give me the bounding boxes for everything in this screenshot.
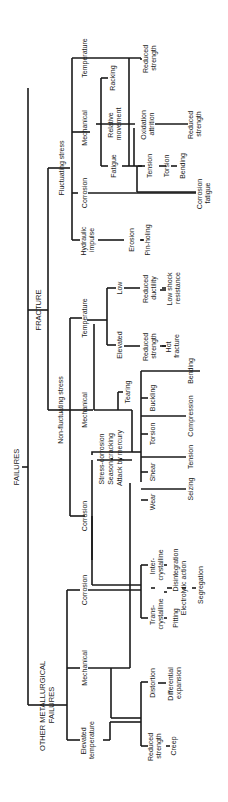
label-torsion-nf: Torsion [149, 423, 156, 446]
label-corrosion-fatigue: Corrosion fatigue [196, 177, 212, 209]
label-disintegration: Disintegration [172, 548, 180, 591]
label-nf-corrosion: Corrosion [81, 501, 88, 531]
label-hot-fracture: Hot fracture [165, 334, 180, 358]
label-other-metallurgical: OTHER METALLURGICAL FAILURES [38, 659, 56, 751]
label-tearing: Tearing [124, 380, 132, 403]
label-fracture: FRACTURE [34, 290, 43, 331]
label-om-elevated-temperature: Elevated temperature [80, 721, 96, 759]
label-nf-reduced-strength: Reduced strength [142, 331, 158, 361]
label-pin-holing: Pin-holing [144, 224, 152, 255]
label-buckling: Buckling [149, 385, 157, 412]
label-trans-crystalline: Trans- crystalline [149, 598, 165, 629]
label-nf-mechanical: Mechanical [81, 392, 88, 428]
label-seizing: Seizing [187, 477, 195, 500]
label-failures: FAILURES [12, 449, 21, 485]
label-racking: Racking [109, 65, 117, 90]
label-creep: Creep [170, 736, 178, 755]
label-non-fluctuating-stress: Non-fluctuating stress [57, 376, 65, 444]
label-distortion: Distortion [149, 668, 156, 698]
label-fl-corrosion: Corrosion [81, 178, 88, 208]
label-fl-reduced-strength-2: Reduced strength [187, 109, 203, 139]
label-low: Low [116, 281, 123, 295]
failures-tree-diagram: FAILURES FRACTURE OTHER METALLURGICAL FA… [0, 0, 228, 802]
label-om-corrosion: Corrosion [81, 575, 88, 605]
label-differential-expansion: Differential expansion [167, 665, 183, 700]
label-fluctuating-stress: Fluctuating stress [58, 140, 66, 195]
node-labels: FAILURES FRACTURE OTHER METALLURGICAL FA… [12, 38, 212, 761]
label-relative-movement: Relative movement [107, 108, 122, 141]
label-torsion-f: Torsion [163, 155, 170, 178]
label-wear: Wear [149, 493, 156, 510]
label-fl-mechanical: Mechanical [81, 110, 88, 146]
label-elevated: Elevated [116, 331, 123, 358]
label-electrolytic-action: Electrolytic action [180, 561, 188, 616]
label-reduced-ductility: Reduced ductility [142, 273, 158, 303]
label-inter-crystalline: Inter- crystalline [149, 549, 165, 580]
label-hydraulic-impulse: Hydraulic impulse [80, 224, 96, 255]
label-fatigue: Fatigue [110, 154, 118, 177]
label-tension-nf: Tension [187, 445, 194, 469]
label-tension-f: Tension [146, 154, 153, 178]
label-fl-temperature: Temperature [81, 38, 89, 77]
label-stress-corrosion: Stress-corrosion Season cracking Attack … [98, 429, 124, 486]
label-shear: Shear [149, 462, 156, 481]
label-pitting: Pitting [172, 608, 180, 628]
label-fl-reduced-strength-1: Reduced strength [142, 43, 158, 73]
label-bending-f: Bending [179, 153, 187, 179]
label-compression: Compression [187, 395, 195, 436]
label-nf-temperature: Temperature [81, 298, 89, 337]
label-segregation: Segregation [197, 566, 205, 604]
label-bending-nf: Bending [187, 358, 195, 384]
label-om-mechanical: Mechanical [81, 650, 88, 686]
label-low-shock-resistance: Low shock resistance [166, 270, 181, 305]
label-om-reduced-strength: Reduced strength [147, 731, 163, 761]
label-erosion: Erosion [128, 228, 135, 252]
label-oxidation-attrition: Oxidation attrition [140, 108, 155, 140]
